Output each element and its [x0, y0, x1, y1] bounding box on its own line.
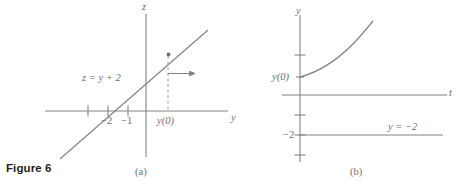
panel-b-tick-label-minus2: −2 [283, 129, 294, 140]
panel-b-label: (b) [350, 166, 362, 177]
panel-b-plot [0, 0, 470, 188]
panel-b-solution-curve [301, 21, 374, 77]
figure-container: Figure 6 z y z = y + 2 −2 −1 y(0) (a) [0, 0, 470, 188]
panel-b-initial-value-label: y(0) [272, 71, 289, 82]
panel-b-asymptote-label: y = −2 [388, 121, 417, 132]
panel-b-horizontal-axis-label: t [449, 87, 452, 98]
panel-b-vertical-axis-label: y [296, 5, 301, 16]
